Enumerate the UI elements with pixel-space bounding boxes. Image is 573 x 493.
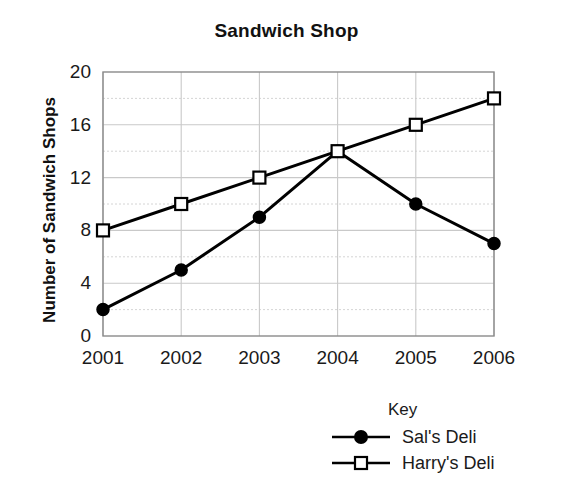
data-point [488, 238, 500, 250]
x-tick-label: 2002 [146, 348, 216, 367]
y-tick-label: 12 [51, 168, 91, 187]
data-point [488, 92, 500, 104]
legend-marker-filled-circle-icon [330, 426, 392, 448]
legend-label-sals-deli: Sal's Deli [392, 427, 476, 448]
y-tick-label: 4 [51, 273, 91, 292]
x-tick-label: 2001 [68, 348, 138, 367]
data-point [253, 211, 265, 223]
data-point [253, 172, 265, 184]
y-tick-label: 16 [51, 115, 91, 134]
y-tick-label: 20 [51, 62, 91, 81]
legend-label-harrys-deli: Harry's Deli [392, 453, 494, 474]
data-point [332, 145, 344, 157]
data-point [410, 198, 422, 210]
data-point [175, 198, 187, 210]
legend-item-0: Sal's Deli [330, 424, 570, 450]
x-tick-label: 2005 [381, 348, 451, 367]
legend-item-1: Harry's Deli [330, 450, 570, 476]
data-point [97, 224, 109, 236]
data-point [410, 119, 422, 131]
x-tick-label: 2006 [459, 348, 529, 367]
y-tick-label: 8 [51, 220, 91, 239]
data-point [97, 304, 109, 316]
data-point [175, 264, 187, 276]
line-chart: Sandwich Shop Number of Sandwich Shops 0… [0, 0, 573, 493]
gridlines [103, 72, 494, 336]
y-tick-label: 0 [51, 326, 91, 345]
legend-title: Key [330, 400, 570, 420]
legend-marker-open-square-icon [330, 452, 392, 474]
x-tick-label: 2004 [303, 348, 373, 367]
x-tick-label: 2003 [224, 348, 294, 367]
series-line-1 [103, 98, 494, 230]
legend: Key Sal's Deli Harry's Deli [330, 400, 570, 476]
